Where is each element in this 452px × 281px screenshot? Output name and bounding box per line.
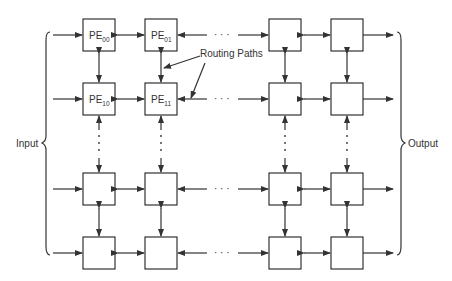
pe-label-11: PE11 (151, 94, 171, 107)
output-label: Output (408, 138, 438, 149)
ellipsis: · · · (214, 29, 230, 40)
mesh-diagram: · · · · · · · · · · · · PE00 PE01 PE10 P… (0, 0, 452, 281)
output-brace (397, 32, 405, 255)
ellipsis: · · · (214, 247, 230, 258)
ellipsis: · · · (214, 183, 230, 194)
input-label: Input (16, 138, 38, 149)
routing-paths-label: Routing Paths (200, 48, 263, 59)
input-brace (42, 32, 50, 255)
pe-label-10: PE10 (89, 94, 110, 107)
ellipsis: · · · (214, 93, 230, 104)
pe-label-01: PE01 (151, 30, 172, 43)
pe-label-00: PE00 (89, 30, 110, 43)
